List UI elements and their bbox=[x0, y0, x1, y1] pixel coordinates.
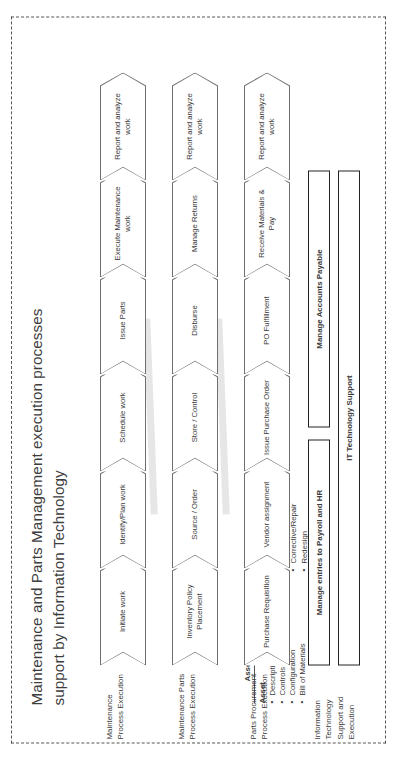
rotation-wrapper: Maintenance and Parts Management executi… bbox=[0, 0, 400, 757]
process-step-label: Inventory Policy Placement bbox=[185, 557, 205, 665]
process-step-label: Report and analyze work bbox=[185, 72, 205, 180]
process-step-label: Manage Returns bbox=[190, 181, 200, 266]
it-bar-payroll-hr[interactable]: Manage entries to Payroll and HR bbox=[308, 439, 330, 665]
process-step[interactable]: Report and analyze work bbox=[100, 72, 146, 180]
process-step[interactable]: Initiate work bbox=[100, 557, 146, 665]
process-step[interactable]: Store / Control bbox=[172, 363, 218, 471]
process-step[interactable]: Vendor assignment bbox=[244, 460, 290, 568]
process-step[interactable]: PO Fulfillment bbox=[244, 266, 290, 374]
process-step-label: PO Fulfillment bbox=[262, 282, 272, 358]
diagram-page: Maintenance and Parts Management executi… bbox=[0, 0, 400, 757]
process-step[interactable]: Report and analyze work bbox=[244, 72, 290, 180]
it-bar-label: Manage Accounts Payable bbox=[315, 249, 324, 348]
process-step-label: Disburse bbox=[190, 291, 200, 349]
process-step[interactable]: Schedule work bbox=[100, 363, 146, 471]
process-step[interactable]: Execute Maintenance work bbox=[100, 169, 146, 277]
diagram-canvas: Maintenance and Parts Management executi… bbox=[0, 0, 400, 757]
process-step-label: Store / Control bbox=[190, 378, 200, 456]
row-label-information-technology-support-and-execution: Information Technology Support and Execu… bbox=[312, 673, 358, 739]
process-step-label: Issue Purchase Order bbox=[262, 366, 272, 469]
process-step[interactable]: Report and analyze work bbox=[172, 72, 218, 180]
process-step-label: Initiate work bbox=[118, 576, 128, 645]
process-step[interactable]: Issue Parts bbox=[100, 266, 146, 374]
process-step-label: Purchase Requisition bbox=[262, 561, 272, 662]
list-item: Corrective/Repair bbox=[289, 473, 299, 563]
process-step-label: Issue Parts bbox=[118, 287, 128, 353]
process-step[interactable]: Manage Returns bbox=[172, 169, 218, 277]
row-label-maintenance-process-execution: Maintenance Process Execution bbox=[104, 673, 127, 739]
process-step[interactable]: Source / Order bbox=[172, 460, 218, 568]
process-step-label: Receive Materials & Pay bbox=[257, 169, 277, 277]
process-step-label: Vendor assignment bbox=[262, 467, 272, 561]
process-step-label: Schedule work bbox=[118, 378, 128, 456]
process-step[interactable]: Receive Materials & Pay bbox=[244, 169, 290, 277]
process-step-label: Report and analyze work bbox=[113, 72, 133, 180]
row-label-maintenance-parts-process-execution: Maintenance Parts Process Execution bbox=[176, 673, 199, 739]
process-step-label: Identify/Plan work bbox=[118, 470, 128, 559]
row-label-parts-procurement-process-execution: Parts Procurement Process Execution bbox=[248, 673, 271, 739]
process-step[interactable]: Disburse bbox=[172, 266, 218, 374]
process-step[interactable]: Identify/Plan work bbox=[100, 460, 146, 568]
it-bar-technology-support[interactable]: IT Technology Support bbox=[338, 170, 360, 665]
process-step[interactable]: Issue Purchase Order bbox=[244, 363, 290, 471]
process-step[interactable]: Inventory Policy Placement bbox=[172, 557, 218, 665]
it-bar-accounts-payable[interactable]: Manage Accounts Payable bbox=[308, 170, 330, 427]
process-step-label: Execute Maintenance work bbox=[113, 169, 133, 277]
it-bar-label: IT Technology Support bbox=[345, 375, 354, 460]
process-step-label: Source / Order bbox=[190, 475, 200, 553]
page-title: Maintenance and Parts Management executi… bbox=[26, 285, 70, 705]
process-step[interactable]: Purchase Requisition bbox=[244, 557, 290, 665]
it-bar-label: Manage entries to Payroll and HR bbox=[315, 489, 324, 614]
process-step-label: Report and analyze work bbox=[257, 72, 277, 180]
